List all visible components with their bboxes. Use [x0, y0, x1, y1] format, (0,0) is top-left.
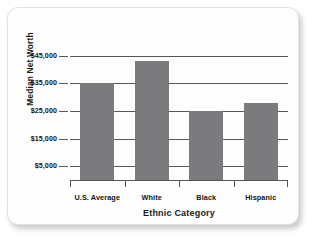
- bar: [80, 83, 114, 180]
- x-tick-label: U.S. Average: [74, 193, 120, 202]
- y-tick-label: $35,000: [31, 79, 57, 87]
- plot-area: $5,000$15,000$25,000$35,000$45,000 U.S. …: [70, 42, 288, 180]
- bar: [189, 111, 223, 180]
- bar-series: [70, 42, 288, 180]
- y-tick-label: $15,000: [31, 135, 57, 143]
- x-tick-mark: [125, 180, 126, 187]
- x-tick-label: Hispanic: [245, 193, 276, 202]
- y-axis-title: Median Net Worth: [25, 17, 35, 121]
- bar: [135, 61, 169, 180]
- x-tick-mark: [234, 180, 235, 187]
- y-tick-label: $45,000: [31, 52, 57, 60]
- y-tick-label: $5,000: [35, 162, 57, 170]
- bar: [244, 103, 278, 180]
- x-tick-label: White: [142, 193, 162, 202]
- x-tick-mark: [179, 180, 180, 187]
- y-tick-mark: [59, 166, 68, 167]
- x-tick-mark: [70, 180, 71, 187]
- y-tick-mark: [59, 56, 68, 57]
- y-tick-mark: [59, 83, 68, 84]
- chart-card: Median Net Worth $5,000$15,000$25,000$35…: [7, 7, 299, 225]
- x-tick-label: Black: [196, 193, 216, 202]
- y-tick-mark: [59, 139, 68, 140]
- y-tick-mark: [59, 111, 68, 112]
- y-tick-label: $25,000: [31, 107, 57, 115]
- bar-chart: Median Net Worth $5,000$15,000$25,000$35…: [8, 8, 298, 224]
- x-tick-mark: [287, 180, 288, 187]
- x-axis-title: Ethnic Category: [70, 208, 288, 218]
